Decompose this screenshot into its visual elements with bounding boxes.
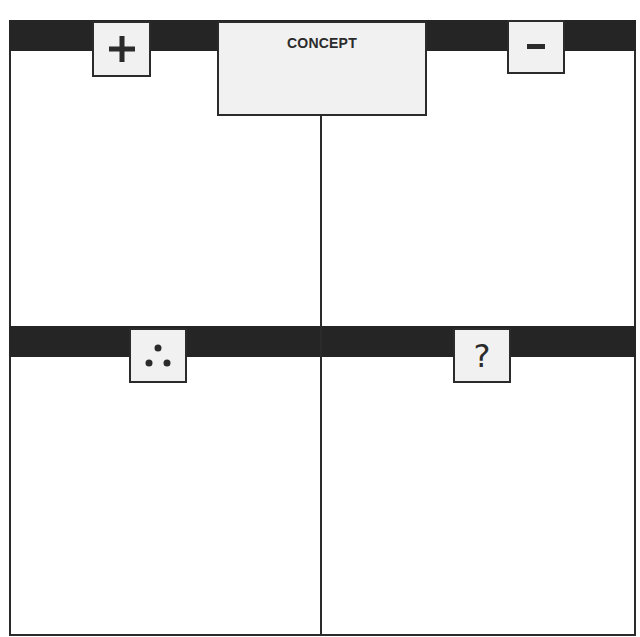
middle-header-bar [9,326,636,357]
quadrant-bottom-left[interactable] [11,357,320,632]
minus-icon [527,44,545,50]
quadrant-top-left[interactable] [11,51,320,326]
concept-title: CONCEPT [287,35,357,51]
quadrant-top-right[interactable] [322,51,633,326]
quadrant-bottom-right[interactable] [322,357,633,632]
